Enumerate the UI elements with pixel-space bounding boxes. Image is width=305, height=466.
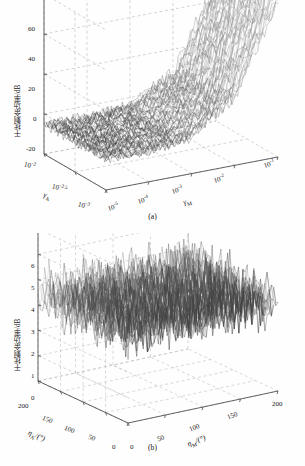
y-tick-a-3: 0 xyxy=(33,115,37,123)
panel-a: 干扰剩余功率/dB 60 40 20 0 -20 10-2 10-2.5 10-… xyxy=(0,0,305,233)
x-tick-b-left-0: 200 xyxy=(18,402,29,410)
y-tick-a-2: 20 xyxy=(28,85,35,93)
figure-container: 干扰剩余功率/dB 60 40 20 0 -20 10-2 10-2.5 10-… xyxy=(0,0,305,466)
y-tick-b-0: 6 xyxy=(31,262,35,270)
y-axis-label-a: 干扰剩余功率/dB xyxy=(13,42,23,137)
y-tick-a-1: 40 xyxy=(28,55,35,63)
y-tick-b-4: 2 xyxy=(31,350,35,358)
y-tick-a-0: 60 xyxy=(28,25,35,33)
caption-a: (a) xyxy=(0,212,305,221)
x-tick-b-right-4: 200 xyxy=(272,400,283,408)
y-tick-b-6: 0 xyxy=(31,394,35,402)
y-tick-b-2: 4 xyxy=(31,306,35,314)
y-tick-a-4: -20 xyxy=(26,145,35,153)
chart-b-canvas xyxy=(0,233,305,466)
y-axis-label-b: 干扰剩余功率/dB xyxy=(13,276,23,371)
plot-area-b xyxy=(0,233,305,466)
caption-b: (b) xyxy=(0,443,305,452)
y-tick-b-5: 1 xyxy=(31,372,35,380)
panel-b xyxy=(0,233,305,466)
y-tick-b-3: 3 xyxy=(31,328,35,336)
y-tick-b-1: 5 xyxy=(31,284,35,292)
